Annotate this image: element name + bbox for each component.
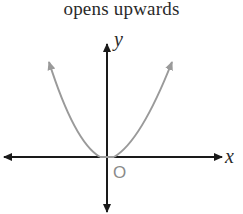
x-axis-label: x: [224, 145, 234, 167]
parabola-curve: [49, 62, 172, 157]
y-axis-label: y: [112, 28, 123, 51]
parabola-diagram: x y O: [0, 0, 243, 214]
origin-label: O: [113, 163, 126, 182]
